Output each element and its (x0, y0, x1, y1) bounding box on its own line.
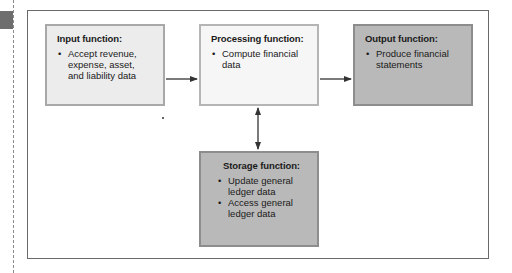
scan-speck (162, 117, 164, 119)
connector-arrows (0, 0, 512, 273)
